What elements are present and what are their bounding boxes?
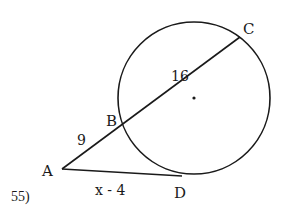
label-point-d: D: [174, 184, 186, 202]
secant-line-ac: [62, 37, 240, 169]
measure-bc: 16: [171, 68, 189, 84]
measure-ab: 9: [77, 132, 86, 148]
measure-ad: x - 4: [95, 182, 126, 198]
tangent-line-ad: [62, 169, 182, 176]
problem-number: 55): [11, 189, 30, 205]
label-point-a: A: [41, 162, 53, 180]
circle-center-dot: [192, 96, 195, 99]
label-point-b: B: [106, 112, 117, 130]
label-point-c: C: [243, 20, 254, 38]
geometry-figure: C B A D 16 9 x - 4 55): [0, 0, 283, 210]
